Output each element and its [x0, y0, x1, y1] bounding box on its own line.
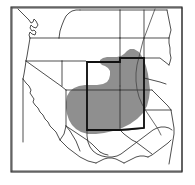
range-distribution-map: [0, 0, 195, 185]
map-canvas: [0, 0, 195, 185]
